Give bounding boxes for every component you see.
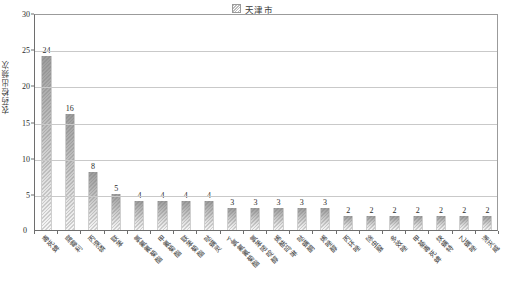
gridline (35, 51, 497, 52)
gridline (35, 160, 497, 161)
bar[interactable] (343, 216, 353, 230)
bar-column[interactable] (413, 15, 423, 230)
bar[interactable] (389, 216, 399, 230)
bar-column[interactable] (65, 15, 75, 230)
bar[interactable] (227, 208, 237, 230)
bar-column[interactable] (343, 15, 353, 230)
y-axis-tick-label: 10 (22, 154, 30, 163)
x-axis-label: 乙螨唑 (458, 234, 479, 255)
y-axis-tick-label: 15 (22, 118, 30, 127)
y-axis-tick-label: 5 (26, 190, 30, 199)
bar[interactable] (134, 201, 144, 230)
bar[interactable] (482, 216, 492, 230)
bar-value-label: 2 (346, 206, 350, 215)
bar[interactable] (273, 208, 283, 230)
legend-label: 天津市 (245, 3, 273, 15)
y-axis: 51015202530 (16, 14, 34, 231)
x-axis-label: 烯唑醇 (318, 234, 339, 255)
bar-column[interactable] (111, 15, 121, 230)
bar-value-label: 2 (393, 206, 397, 215)
bar-value-label: 5 (114, 184, 118, 193)
plot-area: 2416854444333332222222 (34, 14, 498, 231)
x-axis-tick-mark (498, 231, 499, 234)
bar-value-label: 2 (439, 206, 443, 215)
x-axis-label: 除虫脲 (365, 234, 386, 255)
x-axis-label: 联苯菊酯 (179, 234, 205, 260)
y-axis-title: 农药检出频次 (1, 60, 15, 114)
bar-value-label: 16 (66, 104, 74, 113)
bar[interactable] (320, 208, 330, 230)
bar-column[interactable] (482, 15, 492, 230)
y-axis-tick-label: 20 (22, 82, 30, 91)
y-axis-tick-label: 25 (22, 46, 30, 55)
bar[interactable] (436, 216, 446, 230)
bar-value-label: 3 (230, 198, 234, 207)
bar-value-label: 3 (300, 198, 304, 207)
bar-column[interactable] (459, 15, 469, 230)
bar-chart: 天津市 农药检出频次 51015202530 24168544443333322… (0, 0, 505, 296)
x-axis-label: 哒螨酮 (295, 234, 316, 255)
bar-value-label: 2 (462, 206, 466, 215)
bar[interactable] (204, 201, 214, 230)
x-axis-labels: 毒死蜱腐霉利丙溴磷联苯氯氟氰菊酯甲氰菊酯联苯菊酯哒螨灵γ-氯氟氰菊酯氯苯嘧啶醇烯… (34, 234, 498, 296)
bar-value-label: 3 (253, 198, 257, 207)
bar-value-label: 8 (91, 162, 95, 171)
bar[interactable] (366, 216, 376, 230)
bar-series: 2416854444333332222222 (35, 15, 497, 230)
x-axis-label: 炔螨特 (434, 234, 455, 255)
bar[interactable] (88, 172, 98, 230)
bar-value-label: 2 (369, 206, 373, 215)
bar[interactable] (181, 201, 191, 230)
y-axis-zero-label: 0 (23, 226, 27, 235)
bar[interactable] (111, 194, 121, 230)
bar-value-label: 2 (416, 206, 420, 215)
x-axis-label: 哒螨灵 (202, 234, 223, 255)
bar[interactable] (41, 56, 51, 230)
x-axis-label: 丙环唑 (342, 234, 363, 255)
bar[interactable] (413, 216, 423, 230)
bar-value-label: 3 (323, 198, 327, 207)
gridline (35, 87, 497, 88)
bar-value-label: 2 (485, 206, 489, 215)
x-axis-label: 毒死蜱 (40, 234, 61, 255)
y-axis-tick-label: 30 (22, 10, 30, 19)
bar[interactable] (65, 114, 75, 230)
x-axis-label: 联苯 (110, 234, 126, 250)
x-axis-label: 多效唑 (388, 234, 409, 255)
x-axis-label: 涕灭威 (481, 234, 502, 255)
bar[interactable] (250, 208, 260, 230)
bar-column[interactable] (436, 15, 446, 230)
bar-value-label: 3 (277, 198, 281, 207)
x-axis-label: 腐霉利 (63, 234, 84, 255)
bar-column[interactable] (88, 15, 98, 230)
bar[interactable] (157, 201, 167, 230)
gridline (35, 196, 497, 197)
bar-column[interactable] (389, 15, 399, 230)
gridline (35, 124, 497, 125)
bar[interactable] (297, 208, 307, 230)
bar-column[interactable] (366, 15, 376, 230)
legend-swatch-icon (232, 4, 241, 13)
bar[interactable] (459, 216, 469, 230)
x-axis-label: 丙溴磷 (86, 234, 107, 255)
